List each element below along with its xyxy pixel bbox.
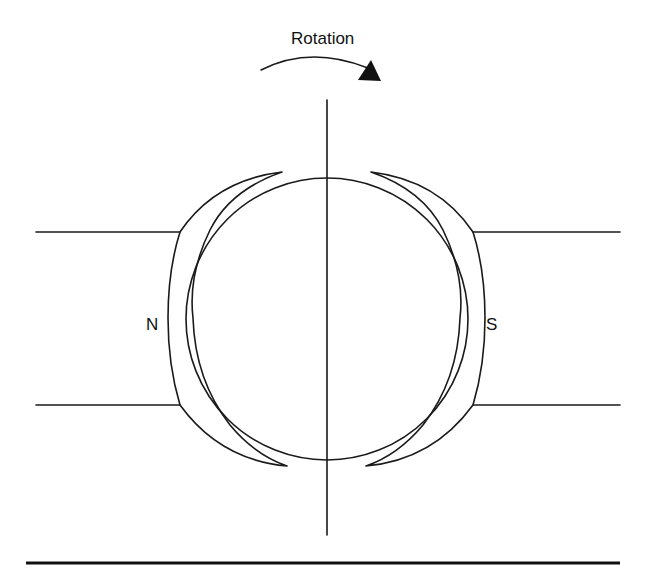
rotation-arrowhead-icon: [358, 60, 381, 81]
left-pole-body: [36, 232, 180, 405]
south-pole-label: S: [486, 315, 497, 334]
rotation-arrow-arc: [261, 57, 368, 70]
right-pole-shoe: [366, 172, 485, 466]
rotation-label: Rotation: [291, 29, 354, 48]
generator-diagram: Rotation N S: [0, 0, 653, 572]
north-pole-label: N: [146, 315, 158, 334]
